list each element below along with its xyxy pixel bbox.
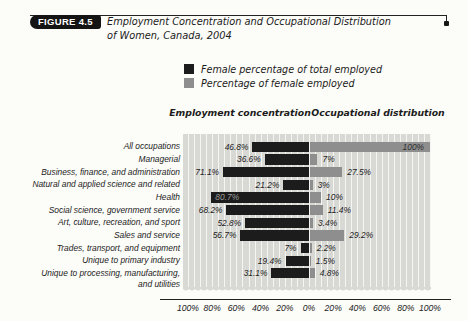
gridline xyxy=(394,134,395,287)
value-label-left: 71.1% xyxy=(195,167,219,177)
figure-title-line2: of Women, Canada, 2004 xyxy=(107,30,232,42)
value-label-right: 11.4% xyxy=(328,205,351,215)
value-label-right: 3.4% xyxy=(318,218,337,228)
black-swatch-icon xyxy=(184,64,194,74)
figure-badge: FIGURE 4.5 xyxy=(30,15,101,30)
bar-employment-concentration xyxy=(252,142,309,152)
value-label-right: 4.8% xyxy=(320,268,339,278)
category-label: Trades, transport, and equipment xyxy=(57,243,180,254)
figure-title-line1: Employment Concentration and Occupationa… xyxy=(107,16,391,28)
bar-employment-concentration xyxy=(286,256,309,266)
bar-employment-concentration xyxy=(265,154,309,164)
category-label: All occupations xyxy=(124,141,180,152)
value-label-right: 2.2% xyxy=(317,243,336,253)
gridline xyxy=(430,134,431,287)
value-label-right: 100% xyxy=(403,142,424,152)
x-tick-label: 0% xyxy=(303,303,315,314)
bar-occupational-distribution xyxy=(309,230,344,240)
bar-employment-concentration xyxy=(271,268,309,278)
bar-occupational-distribution xyxy=(309,192,321,202)
value-label-right: 29.2% xyxy=(349,230,373,240)
value-label-left: 36.6% xyxy=(237,154,261,164)
category-label: Business, finance, and administration xyxy=(41,167,180,178)
x-tick-label: 40% xyxy=(349,303,366,314)
legend: Female percentage of total employed Perc… xyxy=(184,62,382,90)
gridline xyxy=(188,134,189,287)
top-rule-dot-icon xyxy=(444,21,449,26)
gridline xyxy=(376,134,377,287)
gridline xyxy=(194,134,195,287)
bar-occupational-distribution xyxy=(309,154,317,164)
value-label-left: 56.7% xyxy=(213,230,237,240)
plot-scalloped-edge xyxy=(183,287,431,293)
value-label-left: 19.4% xyxy=(258,256,282,266)
value-label-right: 27.5% xyxy=(347,167,371,177)
category-label: Managerial xyxy=(139,154,180,165)
legend-label: Female percentage of total employed xyxy=(201,64,382,75)
bar-employment-concentration xyxy=(301,243,309,253)
category-label: Art, culture, recreation, and sport xyxy=(58,217,180,228)
category-label: Health xyxy=(156,192,180,203)
category-label: Unique to primary industry xyxy=(82,255,180,266)
legend-label: Percentage of female employed xyxy=(201,78,355,89)
gridline xyxy=(400,134,401,287)
bar-employment-concentration xyxy=(240,230,309,240)
value-label-left: 7% xyxy=(284,243,296,253)
value-label-right: 1.5% xyxy=(316,256,335,266)
bottom-rule xyxy=(160,299,451,300)
gridline xyxy=(351,134,352,287)
value-label-right: 3% xyxy=(318,180,330,190)
x-tick-label: 20% xyxy=(276,303,293,314)
x-tick-label: 80% xyxy=(397,303,414,314)
x-tick-label: 80% xyxy=(204,303,221,314)
value-label-right: 7% xyxy=(322,154,334,164)
value-label-left: 80.7% xyxy=(215,192,239,202)
gridline xyxy=(382,134,383,287)
left-column-header: Employment concentration xyxy=(160,107,320,118)
x-tick-label: 60% xyxy=(228,303,245,314)
value-label-left: 68.2% xyxy=(199,205,223,215)
x-tick-label: 40% xyxy=(252,303,269,314)
gray-swatch-icon xyxy=(184,78,194,88)
gridline xyxy=(412,134,413,287)
figure-4-5: FIGURE 4.5 Employment Concentration and … xyxy=(0,0,468,321)
value-label-left: 46.8% xyxy=(225,142,249,152)
bar-employment-concentration xyxy=(223,167,309,177)
category-label: Sales and service xyxy=(114,230,180,241)
value-label-left: 31.1% xyxy=(244,268,268,278)
x-tick-label: 100% xyxy=(419,303,441,314)
bar-employment-concentration xyxy=(283,180,309,190)
x-tick-label: 20% xyxy=(325,303,342,314)
value-label-right: 10% xyxy=(326,192,343,202)
gridline xyxy=(224,134,225,287)
gridline xyxy=(357,134,358,287)
right-column-header: Occupational distribution xyxy=(300,107,456,118)
gridline xyxy=(370,134,371,287)
legend-item: Female percentage of total employed xyxy=(184,62,382,76)
bar-occupational-distribution xyxy=(309,205,323,215)
gridline xyxy=(424,134,425,287)
bar-employment-concentration xyxy=(245,218,309,228)
value-label-left: 21.2% xyxy=(256,180,280,190)
gridline xyxy=(406,134,407,287)
bar-employment-concentration xyxy=(226,205,309,215)
x-tick-label: 60% xyxy=(373,303,390,314)
category-label: Social science, government service xyxy=(49,205,180,216)
value-label-left: 52.8% xyxy=(217,218,241,228)
plot-area: 46.8%100%36.6%7%71.1%27.5%21.2%3%80.7%10… xyxy=(183,134,431,287)
zero-line xyxy=(309,134,310,287)
gridline xyxy=(418,134,419,287)
gridline xyxy=(388,134,389,287)
bar-occupational-distribution xyxy=(309,167,342,177)
x-tick-label: 100% xyxy=(177,303,199,314)
category-label: Unique to processing, manufacturing, and… xyxy=(41,268,180,289)
legend-item: Percentage of female employed xyxy=(184,76,382,90)
category-label: Natural and applied science and related xyxy=(32,179,180,190)
gridline xyxy=(363,134,364,287)
